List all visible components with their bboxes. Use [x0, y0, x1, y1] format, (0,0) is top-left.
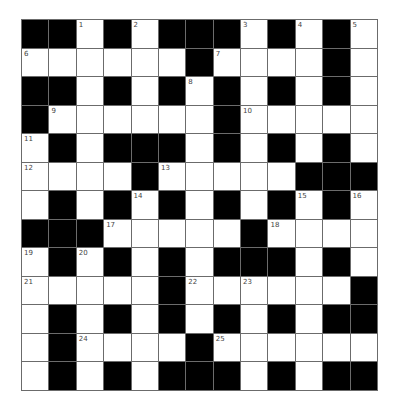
grid-cell[interactable] — [296, 334, 322, 362]
grid-cell[interactable] — [132, 49, 158, 77]
grid-cell[interactable] — [132, 77, 158, 105]
grid-cell[interactable] — [77, 277, 103, 305]
grid-cell[interactable] — [241, 163, 267, 191]
grid-cell[interactable] — [241, 305, 267, 333]
grid-cell[interactable] — [104, 334, 130, 362]
grid-cell[interactable] — [22, 362, 48, 390]
grid-cell[interactable]: 25 — [214, 334, 240, 362]
grid-cell[interactable]: 3 — [241, 20, 267, 48]
grid-cell[interactable]: 6 — [22, 49, 48, 77]
grid-cell[interactable] — [49, 49, 75, 77]
grid-cell[interactable] — [132, 362, 158, 390]
grid-cell[interactable]: 23 — [241, 277, 267, 305]
grid-cell[interactable] — [159, 49, 185, 77]
grid-cell[interactable]: 11 — [22, 134, 48, 162]
grid-cell[interactable] — [132, 248, 158, 276]
grid-cell[interactable] — [22, 334, 48, 362]
grid-cell[interactable] — [49, 277, 75, 305]
grid-cell[interactable] — [104, 106, 130, 134]
grid-cell[interactable] — [77, 362, 103, 390]
grid-cell[interactable] — [268, 49, 294, 77]
grid-cell[interactable]: 19 — [22, 248, 48, 276]
grid-cell[interactable] — [323, 220, 349, 248]
grid-cell[interactable] — [214, 277, 240, 305]
grid-cell[interactable] — [186, 163, 212, 191]
grid-cell[interactable] — [296, 362, 322, 390]
grid-cell[interactable] — [132, 220, 158, 248]
grid-cell[interactable] — [296, 77, 322, 105]
grid-cell[interactable] — [296, 277, 322, 305]
grid-cell[interactable] — [296, 49, 322, 77]
grid-cell[interactable] — [186, 134, 212, 162]
grid-cell[interactable] — [351, 77, 377, 105]
grid-cell[interactable] — [351, 134, 377, 162]
grid-cell[interactable]: 2 — [132, 20, 158, 48]
grid-cell[interactable]: 14 — [132, 191, 158, 219]
grid-cell[interactable] — [49, 163, 75, 191]
grid-cell[interactable]: 8 — [186, 77, 212, 105]
grid-cell[interactable] — [159, 220, 185, 248]
grid-cell[interactable]: 21 — [22, 277, 48, 305]
grid-cell[interactable]: 1 — [77, 20, 103, 48]
grid-cell[interactable] — [241, 77, 267, 105]
grid-cell[interactable] — [323, 106, 349, 134]
grid-cell[interactable] — [77, 163, 103, 191]
grid-cell[interactable] — [351, 49, 377, 77]
grid-cell[interactable]: 20 — [77, 248, 103, 276]
grid-cell[interactable] — [104, 49, 130, 77]
grid-cell[interactable] — [323, 277, 349, 305]
grid-cell[interactable] — [268, 163, 294, 191]
grid-cell[interactable] — [351, 220, 377, 248]
grid-cell[interactable] — [77, 77, 103, 105]
grid-cell[interactable] — [214, 163, 240, 191]
grid-cell[interactable]: 4 — [296, 20, 322, 48]
grid-cell[interactable] — [241, 334, 267, 362]
grid-cell[interactable] — [186, 220, 212, 248]
grid-cell[interactable] — [296, 248, 322, 276]
grid-cell[interactable] — [296, 305, 322, 333]
grid-cell[interactable] — [186, 191, 212, 219]
grid-cell[interactable]: 24 — [77, 334, 103, 362]
grid-cell[interactable] — [323, 334, 349, 362]
grid-cell[interactable]: 15 — [296, 191, 322, 219]
grid-cell[interactable] — [268, 277, 294, 305]
grid-cell[interactable] — [241, 191, 267, 219]
grid-cell[interactable]: 9 — [49, 106, 75, 134]
grid-cell[interactable] — [132, 106, 158, 134]
grid-cell[interactable] — [186, 106, 212, 134]
grid-cell[interactable] — [268, 106, 294, 134]
grid-cell[interactable] — [104, 277, 130, 305]
grid-cell[interactable] — [296, 220, 322, 248]
grid-cell[interactable] — [22, 191, 48, 219]
grid-cell[interactable] — [186, 248, 212, 276]
grid-cell[interactable] — [351, 248, 377, 276]
grid-cell[interactable]: 12 — [22, 163, 48, 191]
grid-cell[interactable] — [77, 305, 103, 333]
grid-cell[interactable] — [268, 334, 294, 362]
grid-cell[interactable] — [296, 106, 322, 134]
grid-cell[interactable] — [159, 334, 185, 362]
grid-cell[interactable] — [77, 191, 103, 219]
grid-cell[interactable] — [241, 134, 267, 162]
grid-cell[interactable]: 22 — [186, 277, 212, 305]
grid-cell[interactable]: 18 — [268, 220, 294, 248]
grid-cell[interactable] — [104, 163, 130, 191]
grid-cell[interactable]: 7 — [214, 49, 240, 77]
grid-cell[interactable] — [77, 134, 103, 162]
grid-cell[interactable] — [132, 277, 158, 305]
grid-cell[interactable] — [296, 134, 322, 162]
grid-cell[interactable] — [186, 305, 212, 333]
grid-cell[interactable] — [132, 305, 158, 333]
grid-cell[interactable]: 10 — [241, 106, 267, 134]
grid-cell[interactable] — [159, 106, 185, 134]
grid-cell[interactable] — [351, 334, 377, 362]
grid-cell[interactable] — [22, 305, 48, 333]
grid-cell[interactable]: 13 — [159, 163, 185, 191]
grid-cell[interactable] — [77, 106, 103, 134]
grid-cell[interactable] — [241, 49, 267, 77]
grid-cell[interactable]: 5 — [351, 20, 377, 48]
grid-cell[interactable] — [132, 334, 158, 362]
grid-cell[interactable]: 17 — [104, 220, 130, 248]
grid-cell[interactable] — [241, 362, 267, 390]
grid-cell[interactable]: 16 — [351, 191, 377, 219]
